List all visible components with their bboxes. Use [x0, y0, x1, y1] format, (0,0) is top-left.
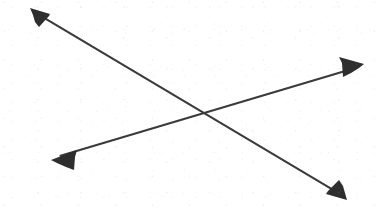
arrowhead-top-right: [339, 57, 364, 77]
arrowhead-bottom-left: [51, 150, 77, 170]
arrowhead-bottom-right: [326, 180, 347, 200]
arrowhead-top-left: [30, 8, 50, 27]
descending-arrow-shaft: [37, 14, 339, 194]
figure-canvas: [0, 0, 376, 216]
crossing-arrows-diagram: [0, 0, 376, 216]
ascending-arrow-shaft: [60, 68, 356, 156]
descending-arrow: [30, 8, 347, 200]
ascending-arrow: [51, 57, 364, 170]
